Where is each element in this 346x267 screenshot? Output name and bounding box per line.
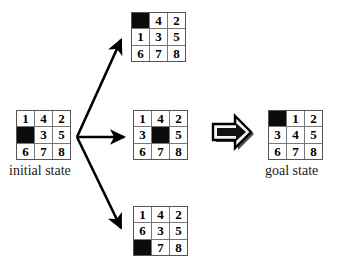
tile: 6 [269, 144, 286, 159]
tile: 2 [305, 111, 322, 126]
tile: 5 [170, 223, 187, 238]
tile: 8 [305, 144, 322, 159]
tile: 3 [152, 223, 169, 238]
tile: 1 [17, 111, 34, 126]
tile: 6 [134, 223, 151, 238]
tile: 2 [170, 207, 187, 222]
block-arrow-right-icon [213, 116, 254, 150]
arrow-up-icon [77, 40, 121, 137]
puzzle-grid-successor-up: 4 2 1 3 5 6 7 8 [131, 12, 186, 62]
puzzle-grid-initial: 1 4 2 3 5 6 7 8 [16, 110, 71, 160]
tile: 8 [170, 144, 187, 159]
tile: 8 [168, 46, 185, 61]
tile: 4 [150, 13, 167, 28]
puzzle-diagram: 1 4 2 3 5 6 7 8 initial state 4 2 1 3 5 … [0, 0, 346, 267]
tile: 5 [170, 127, 187, 142]
tile: 3 [35, 127, 52, 142]
tile: 5 [305, 127, 322, 142]
blank-tile [132, 13, 149, 28]
tile: 4 [35, 111, 52, 126]
tile: 7 [152, 240, 169, 255]
blank-tile [134, 240, 151, 255]
tile: 2 [53, 111, 70, 126]
blank-tile [152, 127, 169, 142]
tile: 7 [150, 46, 167, 61]
tile: 3 [269, 127, 286, 142]
tile: 1 [132, 29, 149, 44]
arrow-down-icon [77, 137, 121, 228]
tile: 2 [170, 111, 187, 126]
tile: 7 [287, 144, 304, 159]
tile: 7 [35, 144, 52, 159]
blank-tile [17, 127, 34, 142]
tile: 1 [134, 111, 151, 126]
tile: 2 [168, 13, 185, 28]
tile: 4 [287, 127, 304, 142]
goal-state-label: goal state [265, 164, 318, 178]
puzzle-grid-goal: 1 2 3 4 5 6 7 8 [268, 110, 323, 160]
tile: 6 [17, 144, 34, 159]
tile: 5 [53, 127, 70, 142]
tile: 5 [168, 29, 185, 44]
tile: 6 [132, 46, 149, 61]
tile: 8 [170, 240, 187, 255]
tile: 3 [150, 29, 167, 44]
tile: 4 [152, 207, 169, 222]
tile: 1 [134, 207, 151, 222]
tile: 7 [152, 144, 169, 159]
tile: 3 [134, 127, 151, 142]
tile: 4 [152, 111, 169, 126]
blank-tile [269, 111, 286, 126]
tile: 8 [53, 144, 70, 159]
tile: 1 [287, 111, 304, 126]
puzzle-grid-successor-down: 1 4 2 6 3 5 7 8 [133, 206, 188, 256]
tile: 6 [134, 144, 151, 159]
puzzle-grid-successor-right: 1 4 2 3 5 6 7 8 [133, 110, 188, 160]
initial-state-label: initial state [9, 164, 71, 178]
